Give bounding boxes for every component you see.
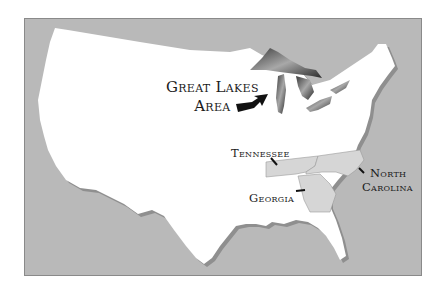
label-great-lakes-area: Great Lakes Area — [166, 80, 259, 114]
label-great-lakes-line1: Great Lakes — [166, 80, 259, 95]
label-north-carolina-line2: Carolina — [362, 182, 413, 194]
label-great-lakes-line2: Area — [166, 99, 259, 114]
label-tennessee: Tennessee — [231, 148, 290, 160]
georgia-arrow — [296, 190, 305, 191]
label-north-carolina-line1: North — [362, 168, 413, 180]
land-usa — [38, 28, 395, 264]
us-map — [0, 0, 446, 291]
label-north-carolina: North Carolina — [362, 168, 413, 193]
label-georgia: Georgia — [249, 193, 294, 205]
